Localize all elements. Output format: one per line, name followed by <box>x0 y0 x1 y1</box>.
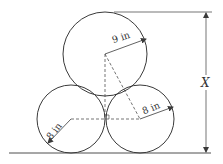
dashed-hypotenuse <box>105 54 140 119</box>
height-label-x: X <box>200 76 210 90</box>
pipe-stack-diagram: 9 in 8 in 8 in X <box>0 0 223 164</box>
right-radius-label: 8 in <box>140 99 161 116</box>
top-radius-label: 9 in <box>111 29 132 45</box>
left-radius-label: 8 in <box>44 120 64 141</box>
